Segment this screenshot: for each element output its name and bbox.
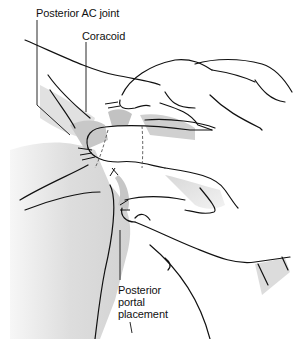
label-posterior-ac-joint: Posterior AC joint bbox=[36, 7, 119, 20]
label-posterior-portal-line3: placement bbox=[118, 308, 168, 321]
illustration-canvas: Posterior AC joint Coracoid Posterior po… bbox=[0, 0, 300, 339]
leader-tick bbox=[130, 322, 132, 333]
shoulder-shading bbox=[10, 85, 290, 339]
label-coracoid: Coracoid bbox=[82, 30, 125, 43]
